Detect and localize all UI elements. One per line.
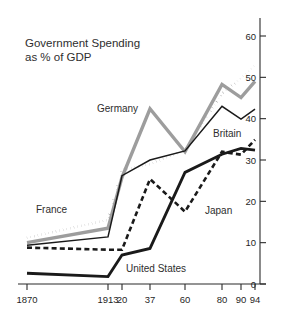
y-tick-label: 40 [245, 113, 256, 124]
chart-title-line-1: Government Spending [25, 37, 140, 49]
government-spending-line-chart: Government Spending as % of GDP FranceGe… [0, 0, 287, 317]
x-tick-label: 1913 [97, 294, 118, 305]
y-tick-label: 20 [245, 196, 256, 207]
chart-title-line-2: as % of GDP [25, 51, 92, 63]
y-tick-layer: 0102030405060 [245, 31, 266, 290]
x-tick-layer: 18701913203760809094 [16, 284, 260, 305]
chart-title-group: Government Spending as % of GDP [25, 37, 140, 63]
series-label-layer: FranceGermanyBritainJapanUnited States [36, 103, 241, 274]
x-tick-label: 20 [117, 294, 128, 305]
x-tick-label: 90 [236, 294, 247, 305]
series-line-germany [27, 81, 255, 242]
series-label-france: France [36, 204, 68, 215]
y-tick-label: 50 [245, 72, 256, 83]
x-tick-label: 80 [217, 294, 228, 305]
series-layer [27, 65, 255, 276]
series-label-britain: Britain [213, 128, 241, 139]
series-label-japan: Japan [205, 205, 232, 216]
y-tick-label: 30 [245, 155, 256, 166]
series-label-united-states: United States [126, 263, 186, 274]
x-tick-label: 37 [145, 294, 156, 305]
chart-container: Government Spending as % of GDP FranceGe… [0, 0, 287, 317]
x-tick-label: 1870 [16, 294, 37, 305]
y-tick-label: 60 [245, 31, 256, 42]
y-tick-label: 10 [245, 237, 256, 248]
x-tick-label: 60 [180, 294, 191, 305]
series-label-germany: Germany [97, 103, 138, 114]
x-tick-label: 94 [250, 294, 261, 305]
